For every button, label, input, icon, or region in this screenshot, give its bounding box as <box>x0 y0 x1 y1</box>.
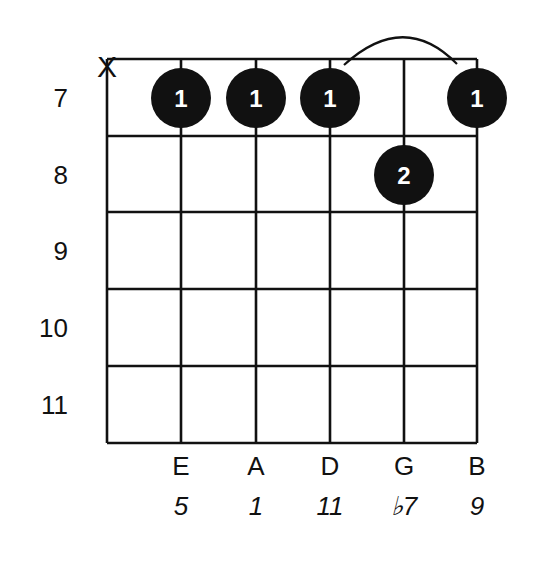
finger-dot: 1 <box>151 68 211 128</box>
interval-label: ♭7 <box>391 491 419 521</box>
fret-number: 11 <box>41 390 68 420</box>
fret-number: 9 <box>54 236 68 266</box>
string-name: B <box>468 451 485 481</box>
string-names: E A D G B <box>172 451 485 481</box>
finger-dot: 1 <box>226 68 286 128</box>
finger-dot: 1 <box>300 68 360 128</box>
slur-arc <box>344 37 457 65</box>
fret-number: 7 <box>54 83 68 113</box>
finger-number: 1 <box>323 85 336 112</box>
finger-number: 1 <box>174 85 187 112</box>
interval-label: 11 <box>317 491 344 521</box>
interval-labels: 5 1 11 ♭7 9 <box>174 491 484 521</box>
muted-string-marker: X <box>97 50 117 83</box>
finger-number: 2 <box>397 162 410 189</box>
finger-dot: 1 <box>447 68 507 128</box>
fret-numbers: 7 8 9 10 11 <box>39 83 68 420</box>
string-name: D <box>321 451 340 481</box>
string-name: E <box>172 451 189 481</box>
chord-diagram: X 7 8 9 10 11 1 1 1 2 1 E A D G B 5 1 11 <box>0 0 537 568</box>
finger-number: 1 <box>249 85 262 112</box>
finger-number: 1 <box>470 85 483 112</box>
interval-label: 1 <box>249 491 263 521</box>
interval-label: 9 <box>470 491 484 521</box>
string-name: G <box>394 451 414 481</box>
string-name: A <box>247 451 265 481</box>
interval-label: 5 <box>174 491 189 521</box>
fret-number: 8 <box>54 160 68 190</box>
finger-dot: 2 <box>374 145 434 205</box>
fret-number: 10 <box>39 313 68 343</box>
